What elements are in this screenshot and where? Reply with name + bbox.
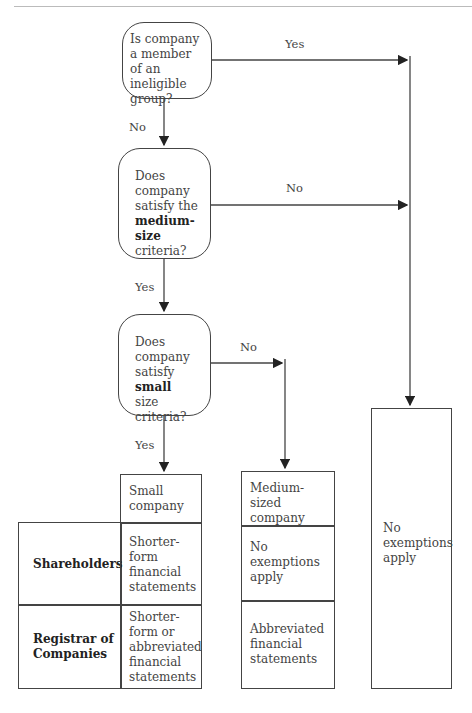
medium-shareholders-value: No exemptions apply [241,525,335,602]
decision-text-line: company [135,184,210,199]
decision-text-line: satisfy [135,365,174,379]
recipient-label: Registrar of Companies [33,632,115,662]
edge-label-q2-yes: Yes [135,280,154,294]
decision-text-line: of an ineligible [130,62,211,92]
decision-text-line: Is company [130,32,211,47]
no-exemptions-box: No exemptions apply [371,408,452,689]
decision-text-line: a member [130,47,211,62]
shareholders-value: Shorter-form financial statements [120,522,202,606]
decision-ineligible-group: Is company a member of an ineligible gro… [122,22,212,99]
decision-small-size: Does company satisfy small size criteria… [118,314,211,416]
decision-text-line: group? [130,92,211,107]
decision-text-line: Does [135,169,210,184]
small-company-title: Small company [120,474,202,524]
edge-label-q2-no: No [286,181,303,195]
recipient-label: Shareholders [33,557,123,572]
edge-label-q1-no: No [129,120,146,134]
decision-text-line: size criteria? [135,395,210,425]
registrar-value: Shorter-form or abbreviated financial st… [120,604,202,689]
decision-bold-term: small [135,380,171,394]
decision-medium-size: Does company satisfy the medium-size cri… [118,148,211,259]
decision-bold-term: medium-size [135,214,195,243]
decision-text-line: criteria? [135,244,210,259]
medium-registrar-value: Abbreviated financial statements [241,600,335,689]
medium-company-title: Medium-sized company [241,471,335,527]
edge-label-q3-no: No [240,340,257,354]
recipient-shareholders: Shareholders [18,522,122,606]
edge-label-q1-yes: Yes [285,37,304,51]
decision-text-line: Does [135,335,210,350]
decision-text-line: company [135,350,210,365]
edge-label-q3-yes: Yes [135,438,154,452]
decision-text-line: satisfy the [135,199,210,214]
recipient-registrar: Registrar of Companies [18,604,122,689]
